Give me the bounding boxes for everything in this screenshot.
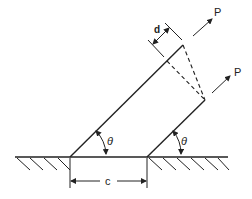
force-top-label: P xyxy=(214,6,221,18)
left-plate-edge xyxy=(70,45,183,157)
angle-left-label: θ xyxy=(107,135,113,147)
offset-label: d xyxy=(154,24,160,35)
force-right-label: P xyxy=(234,66,241,78)
angle-right: θ xyxy=(173,131,187,154)
dashed-displacement xyxy=(167,45,205,100)
base-width-label: c xyxy=(105,175,111,187)
ground xyxy=(15,157,229,170)
force-top: P xyxy=(193,6,221,36)
base-width-dimension: c xyxy=(70,158,147,188)
force-right: P xyxy=(212,66,241,93)
angle-right-label: θ xyxy=(181,135,187,147)
angle-left: θ xyxy=(96,131,113,154)
diagram-canvas: d P P θ θ c xyxy=(0,0,252,199)
right-plate-edge xyxy=(147,100,205,157)
